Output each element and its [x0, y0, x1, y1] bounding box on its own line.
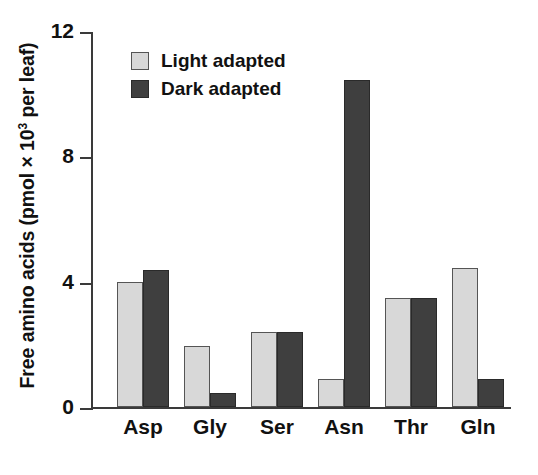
x-label-ser: Ser [251, 415, 303, 439]
x-label-gln: Gln [452, 415, 504, 439]
y-tick-0: 0 [80, 408, 93, 410]
x-label-asp: Asp [117, 415, 169, 439]
bar-gly-dark-adapted [210, 393, 236, 407]
y-tick-4: 4 [80, 283, 93, 285]
x-label-gly: Gly [184, 415, 236, 439]
bar-thr-light-adapted [385, 298, 411, 407]
y-axis-title-pre: Free amino acids (pmol × 10 [17, 129, 39, 388]
legend-swatch-light [131, 52, 149, 70]
y-axis-title: Free amino acids (pmol × 103 per leaf) [17, 42, 40, 388]
legend-swatch-dark [131, 80, 149, 98]
bar-thr-dark-adapted [411, 298, 437, 407]
y-tick-12: 12 [80, 32, 93, 34]
x-label-asn: Asn [318, 415, 370, 439]
y-tick-label: 0 [62, 395, 74, 419]
legend-item-dark-adapted: Dark adapted [131, 76, 286, 102]
y-tick-label: 8 [62, 144, 74, 168]
y-tick-label: 4 [62, 270, 74, 294]
bar-ser-light-adapted [251, 332, 277, 407]
y-axis-title-post: per leaf) [17, 42, 39, 122]
bar-gln-light-adapted [452, 268, 478, 407]
bar-asp-light-adapted [117, 282, 143, 407]
bar-group-thr [385, 33, 437, 407]
y-axis-line [91, 33, 93, 409]
chart-legend: Light adaptedDark adapted [131, 48, 286, 104]
y-tick-8: 8 [80, 157, 93, 159]
bar-chart-figure: Free amino acids (pmol × 103 per leaf) 0… [0, 0, 538, 475]
legend-item-light-adapted: Light adapted [131, 48, 286, 74]
bar-asp-dark-adapted [143, 270, 169, 407]
x-label-thr: Thr [385, 415, 437, 439]
legend-label: Dark adapted [161, 78, 281, 100]
bar-asn-dark-adapted [344, 80, 370, 407]
bar-gly-light-adapted [184, 346, 210, 407]
bar-group-asn [318, 33, 370, 407]
bar-asn-light-adapted [318, 379, 344, 407]
bar-gln-dark-adapted [478, 379, 504, 407]
legend-label: Light adapted [161, 50, 286, 72]
bar-group-gln [452, 33, 504, 407]
y-axis-title-container: Free amino acids (pmol × 103 per leaf) [0, 0, 56, 430]
y-tick-label: 12 [51, 19, 74, 43]
x-axis-line [91, 407, 511, 409]
y-axis-title-exponent: 3 [16, 122, 30, 129]
bar-ser-dark-adapted [277, 332, 303, 407]
